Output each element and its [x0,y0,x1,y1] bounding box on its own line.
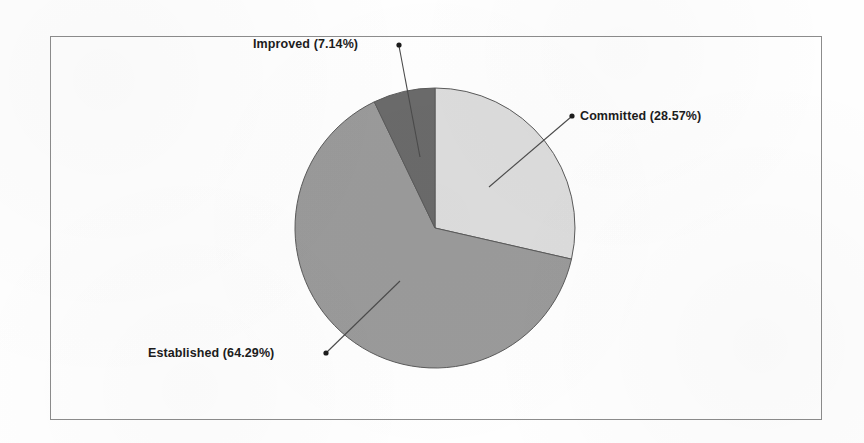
pie-label-committed: Committed (28.57%) [580,109,701,123]
pie-chart-graphic [0,0,864,443]
pie-label-established: Established (64.29%) [148,346,274,360]
pie-label-improved: Improved (7.14%) [253,37,358,51]
chart-page: Improved (7.14%) Committed (28.57%) Esta… [0,0,864,443]
